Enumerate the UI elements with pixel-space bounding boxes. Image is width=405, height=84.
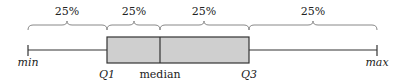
brace-label-2: 25% — [122, 5, 146, 18]
brace-label-4: 25% — [301, 5, 325, 18]
iqr-box — [107, 37, 249, 63]
brace-group — [28, 21, 377, 30]
box-plot-diagram: 25% 25% 25% 25% min Q1 median Q3 max — [0, 0, 405, 84]
q1-label: Q1 — [99, 68, 115, 81]
brace-min-q1 — [28, 21, 107, 30]
q3-label: Q3 — [241, 68, 257, 81]
brace-label-1: 25% — [55, 5, 79, 18]
median-label: median — [139, 68, 180, 81]
brace-median-q3 — [160, 21, 249, 30]
min-label: min — [17, 56, 38, 69]
max-label: max — [365, 56, 389, 69]
brace-label-3: 25% — [192, 5, 216, 18]
brace-q1-median — [107, 21, 160, 30]
brace-q3-max — [249, 21, 377, 30]
